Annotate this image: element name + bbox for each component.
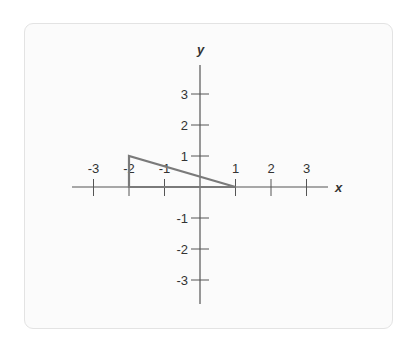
y-tick-label: -1 [176,211,188,226]
x-tick-label: 1 [232,161,239,176]
x-axis-label: x [334,180,343,195]
y-tick-label: 1 [181,149,188,164]
y-axis-label: y [196,42,205,57]
x-tick-label: 3 [303,161,310,176]
y-tick-label: 3 [181,87,188,102]
x-tick-label: -3 [88,161,100,176]
x-ticks: -3-2-1123 [88,161,310,196]
y-tick-label: -3 [176,273,188,288]
x-tick-label: 2 [267,161,274,176]
y-tick-label: -2 [176,242,188,257]
y-tick-label: 2 [181,118,188,133]
coordinate-plane: -3-2-1123 321-1-2-3 x y [0,0,411,354]
